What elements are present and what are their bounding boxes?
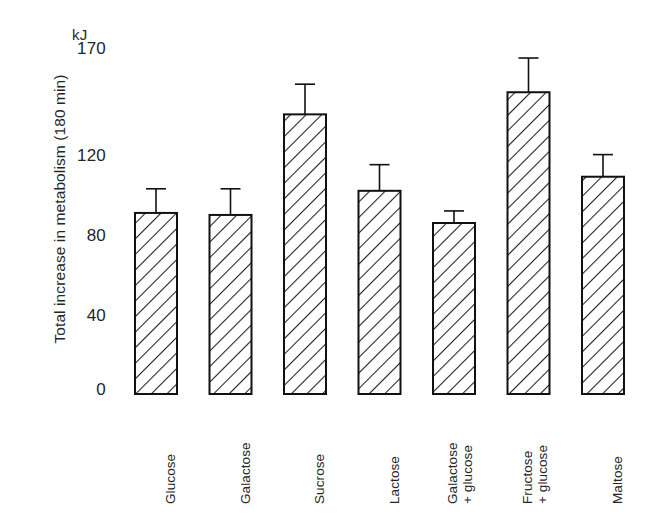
x-axis-label-line1: Glucose	[163, 454, 178, 504]
bars-group	[135, 92, 624, 394]
bar-chart: Total increase in metabolism (180 min) k…	[0, 0, 666, 516]
x-axis-label-line1: Sucrose	[312, 454, 327, 504]
x-axis-label-line2: + glucose	[535, 445, 550, 504]
x-axis-label-6: Maltose	[610, 456, 625, 504]
bar	[135, 213, 177, 394]
bar	[359, 191, 401, 394]
plot-area	[0, 0, 666, 516]
bar	[284, 114, 326, 394]
bar	[508, 92, 550, 394]
bar	[582, 177, 624, 394]
x-axis-label-line1: Maltose	[610, 456, 625, 504]
x-axis-label-line1: Galactose	[238, 442, 253, 504]
x-axis-label-2: Sucrose	[312, 454, 327, 504]
x-axis-label-5: Fructose+ glucose	[520, 445, 550, 504]
x-axis-label-4: Galactose+ glucose	[445, 442, 475, 504]
x-axis-label-line1: Fructose	[520, 451, 535, 504]
bar	[433, 223, 475, 394]
x-axis-label-0: Glucose	[163, 454, 178, 504]
x-axis-label-line1: Galactose	[445, 442, 460, 504]
x-axis-label-line1: Lactose	[387, 456, 402, 504]
x-axis-label-3: Lactose	[387, 456, 402, 504]
x-axis-label-1: Galactose	[238, 442, 253, 504]
x-axis-label-line2: + glucose	[460, 442, 475, 504]
bar	[210, 215, 252, 394]
